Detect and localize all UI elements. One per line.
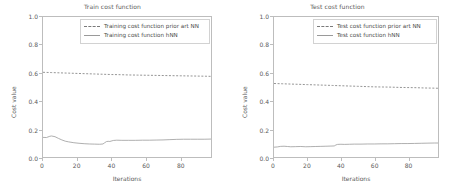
y-tick-test-0: 1.0 (247, 13, 269, 20)
x-tickmark-test (341, 158, 342, 161)
x-tickmark-test (409, 158, 410, 161)
y-tick-test-5: 0.0 (247, 155, 269, 162)
y-tick-train-2: 0.6 (16, 70, 38, 77)
solid-line-key-icon (317, 35, 333, 36)
legend-item-train-prior-art[interactable]: Training cost function prior art NN (84, 22, 205, 31)
legend-label-train-hnn: Training cost function hNN (104, 31, 178, 40)
x-tick-test-2: 40 (331, 162, 351, 169)
x-tick-train-4: 80 (171, 162, 191, 169)
x-tick-train-0: 0 (32, 162, 52, 169)
page-title-test: Test cost function (225, 3, 450, 10)
page-title-train: Train cost function (0, 3, 225, 10)
x-tick-train-2: 40 (101, 162, 121, 169)
x-axis-label-train: Iterations (42, 175, 212, 182)
series-line-test-prior-art-nn (274, 84, 438, 89)
legend-item-test-hnn[interactable]: Test cost function hNN (317, 31, 432, 40)
figure-two-cost-function-plots: Train cost function Cost value 1.0 0.8 0… (0, 0, 450, 196)
x-tickmark-train (181, 158, 182, 161)
x-tickmark-test (307, 158, 308, 161)
x-tick-test-3: 60 (365, 162, 385, 169)
legend-test[interactable]: Test cost function prior art NN Test cos… (313, 19, 437, 44)
y-tick-train-4: 0.2 (16, 127, 38, 134)
x-tick-train-3: 60 (136, 162, 156, 169)
solid-line-key-icon (84, 35, 100, 36)
x-tickmark-train (146, 158, 147, 161)
x-axis-label-test: Iterations (273, 175, 439, 182)
x-tick-test-4: 80 (399, 162, 419, 169)
x-tick-train-1: 20 (67, 162, 87, 169)
legend-label-test-hnn: Test cost function hNN (337, 31, 400, 40)
x-tickmark-train (111, 158, 112, 161)
legend-item-train-hnn[interactable]: Training cost function hNN (84, 31, 205, 40)
y-tick-test-2: 0.6 (247, 70, 269, 77)
series-line-test-hnn (274, 143, 438, 147)
legend-item-test-prior-art[interactable]: Test cost function prior art NN (317, 22, 432, 31)
panel-train-cost-function: Train cost function Cost value 1.0 0.8 0… (0, 0, 225, 196)
y-tick-test-4: 0.2 (247, 127, 269, 134)
x-tickmark-test (273, 158, 274, 161)
legend-train[interactable]: Training cost function prior art NN Trai… (80, 19, 210, 44)
x-tickmark-test (375, 158, 376, 161)
series-line-train-prior-art-nn (43, 72, 211, 76)
panel-test-cost-function: Test cost function Cost value 1.0 0.8 0.… (225, 0, 450, 196)
y-tick-test-1: 0.8 (247, 41, 269, 48)
dashed-line-key-icon (84, 26, 100, 27)
y-tick-test-3: 0.4 (247, 98, 269, 105)
series-line-train-hnn (43, 136, 211, 144)
y-tick-train-1: 0.8 (16, 41, 38, 48)
x-tickmark-train (42, 158, 43, 161)
x-tick-test-0: 0 (263, 162, 283, 169)
x-tick-test-1: 20 (297, 162, 317, 169)
y-tick-train-3: 0.4 (16, 98, 38, 105)
dashed-line-key-icon (317, 26, 333, 27)
legend-label-train-prior-art: Training cost function prior art NN (104, 22, 199, 31)
x-tickmark-train (77, 158, 78, 161)
y-tick-train-5: 0.0 (16, 155, 38, 162)
y-tick-train-0: 1.0 (16, 13, 38, 20)
legend-label-test-prior-art: Test cost function prior art NN (337, 22, 421, 31)
